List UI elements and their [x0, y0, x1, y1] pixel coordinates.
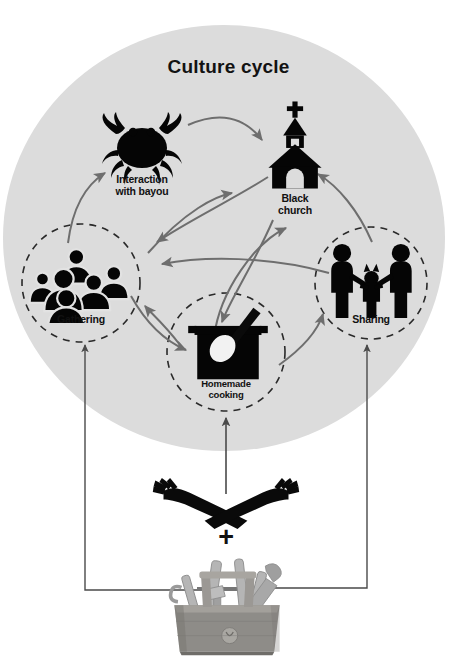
church-label-line2: church — [245, 205, 345, 216]
sharing-label: Sharing — [321, 314, 421, 325]
church-label-line1: Black — [245, 193, 345, 204]
plus-sign: + — [196, 523, 256, 552]
toolbox-icon — [171, 559, 282, 656]
cooking-label-line2: cooking — [176, 390, 276, 400]
culture-cycle-diagram: Culture cycle Interaction with bayou Bla… — [0, 0, 457, 665]
interaction-label-line2: with bayou — [92, 186, 192, 197]
diagram-canvas — [0, 0, 457, 665]
page-title: Culture cycle — [0, 57, 457, 78]
interaction-label-line1: Interaction — [92, 174, 192, 185]
gathering-label: Gathering — [31, 314, 131, 325]
cooking-label-line1: Homemade — [176, 379, 276, 389]
